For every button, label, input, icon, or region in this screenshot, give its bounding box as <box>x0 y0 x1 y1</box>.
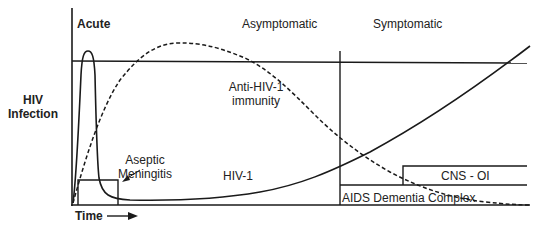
phase-acute-label: Acute <box>77 17 110 31</box>
immunity-label-line1: Anti-HIV-1 <box>206 80 306 94</box>
aseptic-meningitis-label: Aseptic Meningitis <box>118 153 172 181</box>
phase-asymptomatic-label: Asymptomatic <box>242 17 317 31</box>
y-axis-label: HIV Infection <box>6 93 60 121</box>
aseptic-label-line2: Meningitis <box>118 167 172 181</box>
immunity-label: Anti-HIV-1 immunity <box>206 80 306 108</box>
x-axis-label: Time <box>75 209 103 223</box>
phase-symptomatic-label: Symptomatic <box>373 17 442 31</box>
aseptic-label-line1: Aseptic <box>118 153 172 167</box>
time-arrow-head <box>128 212 138 220</box>
aids-dementia-complex-label: AIDS Dementia Complex <box>342 191 475 205</box>
aseptic-meningitis-box <box>78 180 118 205</box>
cns-oi-label: CNS - OI <box>441 169 490 183</box>
immunity-label-line2: immunity <box>206 94 306 108</box>
y-axis-label-line1: HIV <box>6 93 60 107</box>
threshold-line <box>72 61 527 63</box>
y-axis-label-line2: Infection <box>6 107 60 121</box>
hiv-1-label: HIV-1 <box>223 169 253 183</box>
